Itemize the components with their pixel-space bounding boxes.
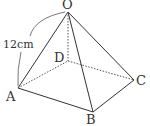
measurement-arc-lower bbox=[18, 52, 21, 86]
pyramid-diagram: O 12cm D A C B bbox=[0, 0, 150, 126]
measurement-label: 12cm bbox=[3, 38, 34, 51]
edge-AB bbox=[18, 88, 93, 112]
vertex-label-A: A bbox=[5, 89, 16, 104]
vertex-label-D: D bbox=[54, 50, 64, 65]
hidden-edge-AD bbox=[18, 61, 68, 88]
vertex-label-B: B bbox=[86, 112, 96, 126]
vertex-label-C: C bbox=[136, 73, 146, 88]
edge-BC bbox=[93, 80, 134, 112]
edge-OC bbox=[68, 12, 134, 80]
vertex-label-O: O bbox=[62, 0, 73, 12]
